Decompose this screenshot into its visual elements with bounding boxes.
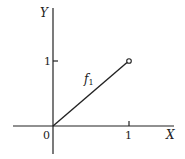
y-axis-label: Y [40, 6, 49, 20]
x-axis-label: X [165, 128, 175, 142]
x-tick-label: 1 [125, 129, 132, 142]
function-subscript: 1 [88, 78, 93, 87]
function-line-f1 [53, 63, 127, 127]
open-endpoint-marker [127, 59, 132, 64]
function-graph: Y X 0 1 1 f1 [0, 0, 185, 159]
origin-label: 0 [43, 129, 50, 142]
function-label: f1 [83, 72, 94, 87]
y-tick-label: 1 [44, 55, 51, 68]
